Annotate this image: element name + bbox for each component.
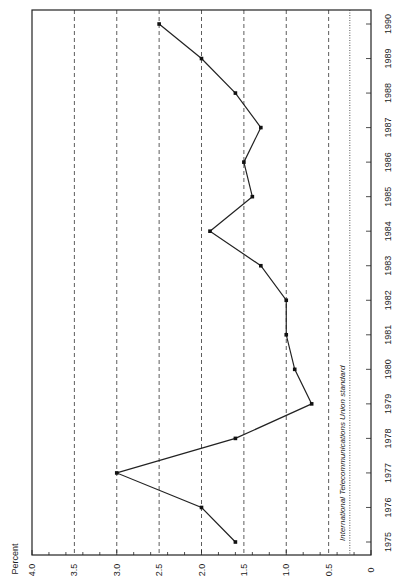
year-tick-label: 1981 [383,325,393,345]
year-tick-label: 1980 [383,359,393,379]
line-chart: International Telecommunications Union s… [0,0,401,576]
data-point [310,402,314,406]
year-tick-label: 1990 [383,14,393,34]
data-point [157,22,161,26]
data-point [293,368,297,372]
value-tick-label: 4.0 [27,564,37,576]
data-point [259,126,263,130]
value-tick-label: 2.5 [154,564,164,576]
data-point [234,91,238,95]
value-tick-label: 1.0 [281,564,291,576]
data-point [242,160,246,164]
data-point [200,57,204,61]
year-tick-label: 1983 [383,256,393,276]
data-point [115,471,119,475]
reference-line-label: International Telecommunications Union s… [338,365,347,541]
data-point [234,540,238,544]
data-point [251,195,255,199]
data-point [259,264,263,268]
year-tick-label: 1977 [383,463,393,483]
year-tick-label: 1985 [383,187,393,207]
data-point [284,298,288,302]
year-tick-label: 1982 [383,290,393,310]
value-tick-label: 0.5 [324,564,334,576]
data-point [234,437,238,441]
value-tick-label: 3.5 [69,564,79,576]
value-tick-label: 1.5 [239,564,249,576]
year-tick-label: 1979 [383,394,393,414]
year-tick-label: 1984 [383,221,393,241]
value-tick-label: 0 [366,567,376,572]
data-point [200,506,204,510]
year-tick-label: 1976 [383,497,393,517]
data-point [208,229,212,233]
year-tick-label: 1987 [383,118,393,138]
year-tick-label: 1986 [383,152,393,172]
year-tick-label: 1988 [383,83,393,103]
year-tick-label: 1989 [383,49,393,69]
year-tick-label: 1978 [383,428,393,448]
value-tick-label: 3.0 [112,564,122,576]
axis-label-percent: Percent [10,543,20,575]
value-tick-label: 2.0 [197,564,207,576]
year-tick-label: 1975 [383,532,393,552]
data-point [284,333,288,337]
series-line [117,24,312,542]
